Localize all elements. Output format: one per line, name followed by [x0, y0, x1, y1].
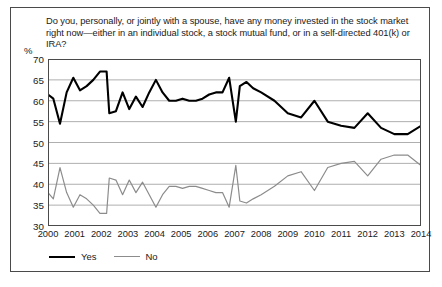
x-tick-label: 2007 — [224, 229, 245, 239]
legend-label-no: No — [146, 251, 158, 262]
x-tick-label: 2005 — [171, 229, 192, 239]
x-tick-label: 2003 — [118, 229, 139, 239]
chart-figure: Do you, personally, or jointly with a sp… — [10, 7, 430, 272]
y-tick-label: 45 — [33, 158, 44, 169]
x-tick-label: 2011 — [331, 229, 351, 239]
series-line-yes — [48, 72, 421, 135]
legend-line-swatch-no — [114, 256, 140, 257]
x-tick-label: 2013 — [384, 229, 405, 239]
legend-label-yes: Yes — [81, 251, 97, 262]
legend-item-yes: Yes — [49, 251, 97, 262]
y-tick-label: 35 — [33, 200, 44, 211]
plot-area: 303540455055606570 200020012002200320042… — [48, 59, 421, 226]
y-tick-label: 50 — [33, 137, 44, 148]
x-tick-label: 2009 — [277, 229, 298, 239]
gridlines — [48, 80, 421, 205]
x-tick-label: 2014 — [411, 229, 432, 239]
legend-line-swatch-yes — [49, 256, 75, 258]
y-tick-label: 40 — [33, 179, 44, 190]
x-tick-label: 2012 — [357, 229, 378, 239]
chart-legend: Yes No — [49, 251, 158, 262]
y-tick-label: 70 — [33, 54, 44, 65]
x-tick-label: 2006 — [198, 229, 219, 239]
y-tick-label: 60 — [33, 95, 44, 106]
y-tick-label: 65 — [33, 74, 44, 85]
x-tick-label: 2000 — [38, 229, 59, 239]
x-tick-label: 2008 — [251, 229, 272, 239]
y-tick-label: 55 — [33, 116, 44, 127]
y-axis-unit-label: % — [24, 45, 32, 56]
legend-item-no: No — [114, 251, 158, 262]
x-tick-label: 2004 — [144, 229, 165, 239]
chart-question-title: Do you, personally, or jointly with a sp… — [46, 16, 416, 51]
x-tick-label: 2001 — [64, 229, 85, 239]
chart-svg — [48, 59, 421, 226]
x-tick-label: 2002 — [91, 229, 112, 239]
x-tick-label: 2010 — [304, 229, 325, 239]
